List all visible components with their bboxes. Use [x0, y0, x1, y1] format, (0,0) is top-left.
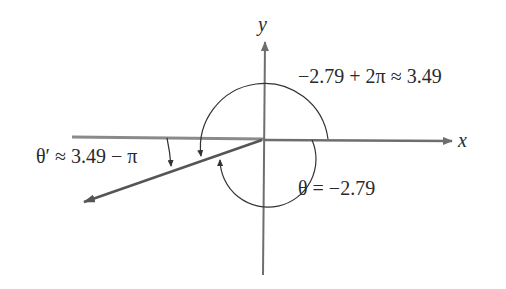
diagram-canvas: y x −2.79 + 2π ≈ 3.49 θ = −2.79 θ′ ≈ 3.4… — [0, 0, 506, 289]
negative-x-reference-line — [72, 137, 264, 139]
coterminal-angle-label: −2.79 + 2π ≈ 3.49 — [298, 66, 442, 86]
reference-angle-arc — [167, 138, 171, 166]
theta-label: θ = −2.79 — [298, 178, 375, 198]
y-axis — [263, 42, 265, 275]
x-axis — [264, 140, 452, 141]
y-axis-label: y — [258, 14, 267, 34]
reference-angle-label: θ′ ≈ 3.49 − π — [36, 146, 137, 166]
x-axis-label: x — [458, 130, 467, 150]
